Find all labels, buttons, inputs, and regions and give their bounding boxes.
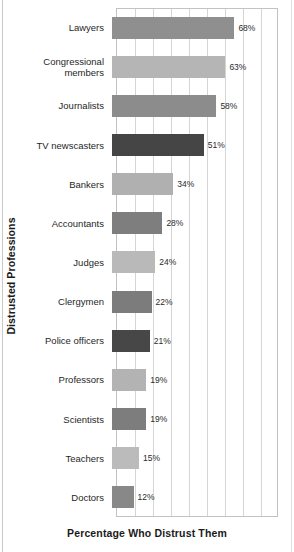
- bar-row: Professors19%: [0, 360, 294, 399]
- bar[interactable]: [112, 212, 162, 234]
- bar-row: Judges24%: [0, 243, 294, 282]
- bar-value-label: 51%: [208, 140, 225, 150]
- bar-track: 22%: [112, 282, 294, 321]
- bar[interactable]: [112, 330, 150, 352]
- bar-track: 34%: [112, 165, 294, 204]
- bar-row: Police officers21%: [0, 321, 294, 360]
- bar-row: Congressional members63%: [0, 47, 294, 86]
- bar[interactable]: [112, 447, 139, 469]
- bar-value-label: 34%: [177, 179, 194, 189]
- bar-track: 63%: [112, 47, 294, 86]
- bar-row: Accountants28%: [0, 204, 294, 243]
- bar-track: 51%: [112, 125, 294, 164]
- bar-track: 68%: [112, 8, 294, 47]
- bar-row: Journalists58%: [0, 86, 294, 125]
- bar-value-label: 15%: [143, 453, 160, 463]
- category-label: Accountants: [0, 218, 112, 229]
- category-label: Judges: [0, 257, 112, 268]
- bar-value-label: 28%: [166, 218, 183, 228]
- bar-row: Bankers34%: [0, 165, 294, 204]
- bar-value-label: 24%: [159, 257, 176, 267]
- bar[interactable]: [112, 291, 152, 313]
- bar[interactable]: [112, 56, 225, 78]
- category-label: Journalists: [0, 100, 112, 111]
- bar-value-label: 58%: [220, 101, 237, 111]
- bar-row: Scientists19%: [0, 400, 294, 439]
- bar[interactable]: [112, 251, 155, 273]
- bar-row: Doctors12%: [0, 478, 294, 517]
- bar-row: Clergymen22%: [0, 282, 294, 321]
- bar[interactable]: [112, 95, 216, 117]
- bar-track: 15%: [112, 439, 294, 478]
- category-label: Scientists: [0, 414, 112, 425]
- bar-track: 19%: [112, 400, 294, 439]
- bar[interactable]: [112, 173, 173, 195]
- bar[interactable]: [112, 17, 234, 39]
- bar-value-label: 68%: [238, 23, 255, 33]
- bar-value-label: 21%: [154, 336, 171, 346]
- x-axis-title: Percentage Who Distrust Them: [0, 527, 294, 539]
- bar[interactable]: [112, 134, 204, 156]
- bar-track: 28%: [112, 204, 294, 243]
- bar-track: 24%: [112, 243, 294, 282]
- bar-value-label: 19%: [150, 375, 167, 385]
- category-label: Teachers: [0, 453, 112, 464]
- bar-track: 58%: [112, 86, 294, 125]
- bar-row: Teachers15%: [0, 439, 294, 478]
- bar-row: TV newscasters51%: [0, 125, 294, 164]
- category-label: Professors: [0, 374, 112, 385]
- bar-value-label: 12%: [138, 492, 155, 502]
- bar-track: 21%: [112, 321, 294, 360]
- bar-rows-container: Lawyers68%Congressional members63%Journa…: [0, 8, 294, 517]
- bar-row: Lawyers68%: [0, 8, 294, 47]
- bar-track: 12%: [112, 478, 294, 517]
- bar-value-label: 63%: [229, 62, 246, 72]
- category-label: Congressional members: [0, 56, 112, 78]
- bar-value-label: 22%: [156, 297, 173, 307]
- category-label: Police officers: [0, 335, 112, 346]
- bar-track: 19%: [112, 360, 294, 399]
- category-label: Bankers: [0, 179, 112, 190]
- bar[interactable]: [112, 408, 146, 430]
- category-label: TV newscasters: [0, 140, 112, 151]
- bar[interactable]: [112, 486, 134, 508]
- bar-value-label: 19%: [150, 414, 167, 424]
- category-label: Clergymen: [0, 296, 112, 307]
- category-label: Lawyers: [0, 22, 112, 33]
- category-label: Doctors: [0, 492, 112, 503]
- bar[interactable]: [112, 369, 146, 391]
- distrusted-professions-bar-chart: Distrusted Professions Lawyers68%Congres…: [0, 0, 294, 552]
